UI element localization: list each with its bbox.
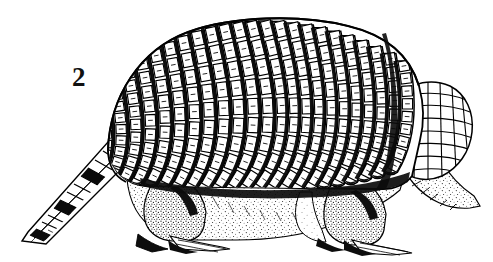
armadillo-line-drawing	[0, 0, 493, 262]
figure-illustration-armadillo: 2	[0, 0, 493, 262]
figure-number-label: 2	[72, 64, 86, 91]
